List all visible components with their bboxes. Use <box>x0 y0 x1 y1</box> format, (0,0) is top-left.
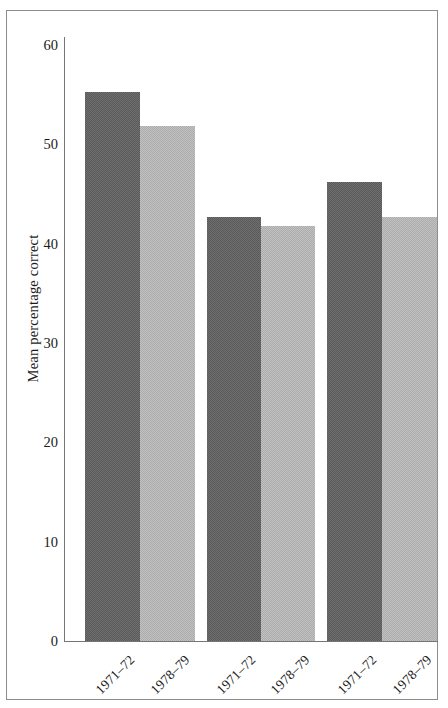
x-tick-label: 1971–72 <box>56 652 138 708</box>
x-axis-tick-labels: 1971–721978–791971–721978–791971–721978–… <box>0 0 448 708</box>
bar-chart-figure: Mean percentage correct 6050403020100 19… <box>0 0 448 708</box>
